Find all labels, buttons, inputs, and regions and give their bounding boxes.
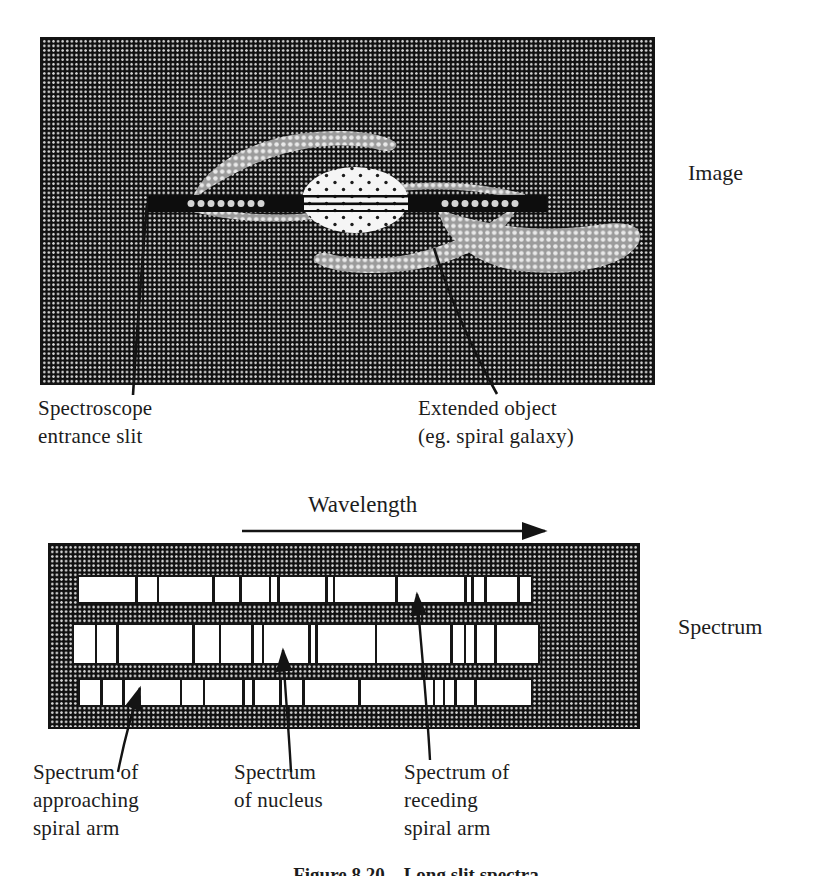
absorption-line xyxy=(450,624,453,664)
absorption-line xyxy=(116,624,119,664)
band-receding-arm xyxy=(77,575,533,604)
nucleus-label: Spectrum of nucleus xyxy=(234,758,323,814)
receding-arm-label-line2: receding xyxy=(404,786,509,814)
absorption-line xyxy=(315,624,318,664)
absorption-line xyxy=(395,576,398,603)
slit-label-line2: entrance slit xyxy=(38,422,152,450)
absorption-line xyxy=(464,624,467,664)
absorption-line xyxy=(135,576,138,603)
absorption-line xyxy=(252,679,255,706)
absorption-line xyxy=(333,576,336,603)
slit-nucleus-centerline xyxy=(304,203,408,206)
absorption-line xyxy=(517,576,520,603)
absorption-line xyxy=(443,679,446,706)
image-panel xyxy=(40,37,655,385)
band-approaching-arm xyxy=(78,678,533,707)
absorption-line xyxy=(122,679,125,706)
spectrum-panel xyxy=(48,543,640,729)
absorption-line xyxy=(239,576,242,603)
absorption-line xyxy=(192,624,195,664)
absorption-line xyxy=(242,679,245,706)
receding-arm-label-line3: spiral arm xyxy=(404,814,509,842)
absorption-line xyxy=(302,679,305,706)
extended-object-label-line2: (eg. spiral galaxy) xyxy=(418,422,574,450)
figure-page: Image Spectrum Spectroscope entrance sli… xyxy=(0,0,832,876)
absorption-line xyxy=(474,679,477,706)
absorption-line xyxy=(471,576,474,603)
absorption-line xyxy=(464,576,467,603)
extended-object-label-line1: Extended object xyxy=(418,394,574,422)
galaxy-illustration xyxy=(42,39,653,383)
band-nucleus xyxy=(72,623,540,665)
absorption-line xyxy=(95,624,98,664)
extended-object-label: Extended object (eg. spiral galaxy) xyxy=(418,394,574,450)
receding-arm-label-line1: Spectrum of xyxy=(404,758,509,786)
approaching-arm-label-line3: spiral arm xyxy=(33,814,139,842)
absorption-line xyxy=(219,624,222,664)
spiral-arm-right-blob xyxy=(438,209,640,273)
slit-label: Spectroscope entrance slit xyxy=(38,394,152,450)
nucleus-label-line1: Spectrum xyxy=(234,758,323,786)
absorption-line xyxy=(100,679,103,706)
figure-caption: Figure 8.20 Long slit spectra xyxy=(0,864,832,876)
absorption-line xyxy=(484,576,487,603)
wavelength-label: Wavelength xyxy=(308,492,417,518)
absorption-line xyxy=(375,624,378,664)
approaching-arm-label: Spectrum of approaching spiral arm xyxy=(33,758,139,842)
absorption-line xyxy=(433,679,436,706)
spectrum-side-label: Spectrum xyxy=(678,614,762,640)
absorption-line xyxy=(212,576,215,603)
absorption-line xyxy=(269,576,272,603)
absorption-line xyxy=(308,624,311,664)
nucleus-label-line2: of nucleus xyxy=(234,786,323,814)
receding-arm-label: Spectrum of receding spiral arm xyxy=(404,758,509,842)
approaching-arm-label-line2: approaching xyxy=(33,786,139,814)
slit-label-line1: Spectroscope xyxy=(38,394,152,422)
approaching-arm-label-line1: Spectrum of xyxy=(33,758,139,786)
absorption-line xyxy=(494,624,497,664)
image-side-label: Image xyxy=(688,160,743,186)
absorption-line xyxy=(262,624,265,664)
spectroscope-slit xyxy=(147,195,547,212)
absorption-line xyxy=(474,624,477,664)
absorption-line xyxy=(277,576,280,603)
absorption-line xyxy=(358,679,361,706)
absorption-line xyxy=(203,679,206,706)
absorption-line xyxy=(279,679,282,706)
absorption-line xyxy=(454,679,457,706)
absorption-line xyxy=(180,679,183,706)
absorption-line xyxy=(251,624,254,664)
absorption-line xyxy=(157,576,160,603)
absorption-line xyxy=(325,576,328,603)
